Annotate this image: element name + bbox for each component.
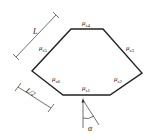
angle-label: α [88, 124, 93, 133]
edge-label-s2: μs2 [114, 75, 122, 84]
edge-label-s6: μs6 [52, 75, 60, 84]
edge-label-s4: μs4 [82, 19, 90, 28]
dimension-half-L-label: L/2 [24, 86, 37, 99]
diagram-canvas: L L/2 μs4 μs3 μs2 μs1 μs6 μs5 α [0, 0, 151, 140]
dimension-half-L [15, 83, 54, 112]
edge-label-s1: μs1 [82, 84, 90, 93]
edge-label-s3: μs3 [126, 44, 134, 53]
edge-label-s5: μs5 [39, 44, 47, 53]
dimension-L-label: L [32, 27, 38, 36]
hexagon-outline [32, 29, 142, 95]
dimension-L [13, 12, 59, 60]
